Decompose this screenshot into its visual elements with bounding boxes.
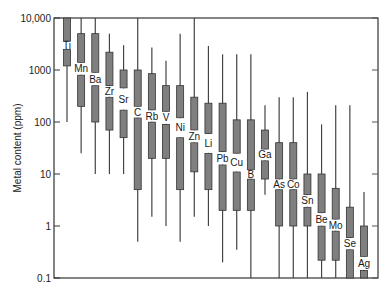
element-label: Pb	[216, 153, 229, 164]
element-label: Cu	[230, 157, 243, 168]
lower-box	[219, 165, 226, 211]
lower-box	[276, 190, 283, 226]
upper-box	[233, 120, 240, 153]
lower-box	[134, 118, 141, 190]
upper-box	[304, 174, 311, 195]
box-as: As	[271, 97, 287, 278]
lower-box	[92, 86, 99, 122]
box-v: V	[158, 61, 174, 226]
y-axis-label: Metal content (ppm)	[12, 104, 23, 193]
box-mn: Mn	[73, 18, 89, 153]
box-be: Be	[314, 124, 330, 278]
box-li: Li	[200, 46, 216, 226]
element-label: Sn	[301, 195, 313, 206]
upper-box	[191, 97, 198, 130]
upper-box	[134, 70, 141, 106]
element-label: C	[134, 107, 141, 118]
element-label: Ti	[63, 40, 71, 51]
lower-box	[106, 97, 113, 130]
lower-box	[262, 161, 269, 179]
box-cu: Cu	[229, 54, 245, 249]
box-b: B	[243, 54, 259, 278]
lower-box	[191, 143, 198, 172]
upper-box	[177, 86, 184, 118]
lower-box	[233, 172, 240, 210]
upper-box	[318, 174, 325, 213]
element-label: Li	[205, 138, 213, 149]
lower-box	[332, 231, 339, 260]
element-label: Zr	[105, 86, 115, 97]
box-ni: Ni	[172, 34, 188, 242]
element-label: Se	[344, 238, 357, 249]
y-tick-label: 1	[45, 221, 51, 232]
lower-box	[148, 122, 155, 158]
y-tick-label: 100	[34, 117, 51, 128]
element-label: Zn	[188, 131, 200, 142]
box-plot-chart: 10,00010001001010.1 TiMnBaZrSrCRbVNiZnLi…	[0, 0, 392, 296]
upper-box	[64, 18, 71, 41]
y-tick-label: 1000	[29, 65, 52, 76]
element-label: As	[273, 179, 285, 190]
box-zn: Zn	[186, 18, 202, 217]
lower-box	[318, 226, 325, 260]
element-label: Ba	[89, 74, 102, 85]
lower-box	[163, 124, 170, 158]
upper-box	[346, 207, 353, 237]
box-co: Co	[285, 97, 301, 278]
lower-box	[205, 153, 212, 189]
y-tick-label: 10	[40, 169, 52, 180]
lower-box	[304, 207, 311, 226]
upper-box	[361, 226, 368, 256]
element-label: Be	[315, 214, 328, 225]
lower-box	[177, 138, 184, 190]
box-c: C	[130, 18, 146, 242]
upper-box	[78, 34, 85, 63]
lower-box	[64, 49, 71, 66]
upper-box	[219, 103, 226, 151]
element-label: Rb	[145, 111, 158, 122]
box-sr: Sr	[116, 45, 132, 174]
element-label: Ga	[258, 149, 272, 160]
upper-box	[247, 120, 254, 170]
upper-box	[106, 52, 113, 85]
box-ti: Ti	[59, 18, 75, 122]
upper-box	[148, 74, 155, 110]
element-label: Mn	[74, 63, 88, 74]
element-label: Mo	[329, 220, 343, 231]
lower-box	[120, 110, 127, 138]
element-label: B	[248, 169, 255, 180]
element-label: V	[163, 112, 170, 123]
lower-box	[346, 250, 353, 278]
box-se: Se	[342, 105, 358, 278]
element-label: Sr	[119, 94, 130, 105]
box-pb: Pb	[215, 54, 231, 262]
element-label: Ag	[358, 258, 370, 269]
upper-box	[290, 143, 297, 179]
box-rb: Rb	[144, 48, 160, 217]
box-zr: Zr	[101, 34, 117, 174]
y-tick-label: 10,000	[20, 13, 51, 24]
y-tick-label: 0.1	[37, 273, 51, 284]
lower-box	[290, 190, 297, 226]
upper-box	[120, 70, 127, 88]
lower-box	[78, 75, 85, 106]
upper-box	[163, 86, 170, 112]
lower-box	[361, 270, 368, 278]
boxes: TiMnBaZrSrCRbVNiZnLiPbCuBGaAsCoSnBeMoSeA…	[59, 18, 372, 278]
upper-box	[262, 130, 269, 149]
upper-box	[205, 103, 212, 133]
upper-box	[332, 188, 339, 219]
upper-box	[92, 34, 99, 73]
upper-box	[276, 143, 283, 179]
element-label: Ni	[175, 122, 184, 133]
box-ag: Ag	[356, 192, 372, 278]
box-ba: Ba	[87, 18, 103, 174]
box-ga: Ga	[257, 105, 273, 194]
box-mo: Mo	[328, 105, 344, 278]
lower-box	[247, 179, 254, 210]
element-label: Co	[287, 179, 300, 190]
box-sn: Sn	[299, 92, 315, 278]
